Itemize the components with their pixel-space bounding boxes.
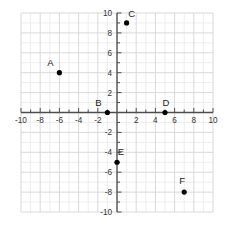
- point-marker: [57, 70, 62, 75]
- y-tick-label: 10: [103, 9, 113, 18]
- x-tick-label: 2: [134, 116, 139, 125]
- point-label: D: [163, 97, 170, 108]
- x-tick-label: -6: [56, 116, 64, 125]
- x-tick-label: -2: [94, 116, 102, 125]
- plot-background: [0, 0, 231, 237]
- point-label: A: [47, 57, 54, 68]
- coordinate-plane-figure: -10-8-6-4-2246810 108642-2-4-6-8-10 ABCD…: [0, 0, 231, 237]
- y-tick-label: 4: [107, 69, 112, 78]
- point-marker: [182, 190, 187, 195]
- x-tick-label: -4: [75, 116, 83, 125]
- point-marker: [105, 110, 110, 115]
- y-tick-label: -6: [105, 168, 113, 177]
- y-tick-label: -10: [100, 208, 112, 217]
- y-tick-label: 2: [107, 89, 112, 98]
- point-marker: [162, 110, 167, 115]
- point-marker: [124, 20, 129, 25]
- y-tick-label: -8: [105, 188, 113, 197]
- coordinate-plane-svg: -10-8-6-4-2246810 108642-2-4-6-8-10 ABCD…: [0, 0, 231, 237]
- point-label: B: [95, 97, 101, 108]
- y-tick-label: -2: [105, 128, 113, 137]
- point-marker: [114, 160, 119, 165]
- y-tick-label: -4: [105, 148, 113, 157]
- x-tick-label: 4: [153, 116, 158, 125]
- x-tick-label: -10: [15, 116, 27, 125]
- x-tick-label: 8: [192, 116, 197, 125]
- x-tick-label: 10: [208, 116, 218, 125]
- y-tick-label: 6: [107, 49, 112, 58]
- point-label: F: [179, 175, 185, 186]
- y-tick-label: 8: [107, 29, 112, 38]
- x-tick-label: -8: [37, 116, 45, 125]
- x-tick-label: 6: [172, 116, 177, 125]
- point-label: C: [128, 8, 135, 19]
- point-label: E: [118, 146, 124, 157]
